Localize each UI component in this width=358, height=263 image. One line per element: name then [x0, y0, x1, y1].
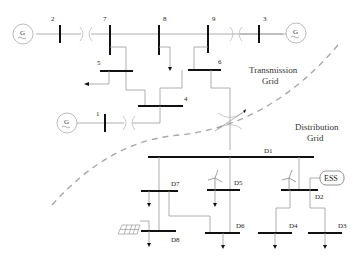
- generator-bus1: G: [57, 113, 77, 133]
- bus-4-label: 4: [184, 95, 188, 103]
- bus-8-label: 8: [163, 15, 167, 23]
- bus-D7-label: D7: [171, 180, 180, 188]
- bus-D6-label: D6: [236, 222, 245, 230]
- load-arrow-icon: [147, 203, 151, 207]
- generator-label: G: [293, 28, 298, 36]
- bus-D1-label: D1: [264, 147, 273, 155]
- bus-D5-label: D5: [234, 179, 243, 187]
- distribution-grid-label-2: Grid: [307, 133, 324, 143]
- pv-panel: [118, 221, 149, 234]
- wind-turbine-D5: [208, 170, 222, 190]
- transformer-2-7: [80, 27, 92, 41]
- load-arrow-icon: [221, 245, 225, 249]
- bus-3-label: 3: [263, 15, 267, 23]
- bus-5-label: 5: [97, 59, 101, 67]
- bus-D8-label: D8: [171, 236, 180, 244]
- bus-D4-label: D4: [289, 222, 298, 230]
- power-grid-diagram: G 2 7 8 9 3 G 5 6 4: [0, 0, 358, 263]
- line-6-4: [160, 70, 182, 106]
- bus-D2-label: D2: [315, 193, 324, 201]
- bus-1-label: 1: [96, 110, 100, 118]
- transmission-grid-label-2: Grid: [262, 76, 279, 86]
- bus-7-label: 7: [103, 15, 107, 23]
- bus-6-label: 6: [218, 58, 222, 66]
- bus-D3-label: D3: [338, 222, 347, 230]
- load-arrow-icon: [147, 243, 151, 247]
- line-D7-D6: [169, 191, 210, 233]
- wind-turbine-D2: [282, 170, 296, 190]
- line-9-6: [194, 47, 208, 70]
- generator-label: G: [20, 29, 25, 37]
- bus-9-label: 9: [212, 15, 216, 23]
- transmission-grid-label: Transmission: [249, 65, 298, 75]
- substation-transformer: [215, 109, 246, 131]
- bus-2-label: 2: [51, 15, 55, 23]
- load-arrow-icon: [213, 203, 217, 207]
- ess-label: ESS: [324, 174, 338, 183]
- load-arrow-icon: [84, 82, 89, 86]
- load-arrow-icon: [273, 245, 277, 249]
- distribution-grid-label: Distribution: [295, 122, 339, 132]
- load-arrow-icon: [323, 245, 327, 249]
- generator-label: G: [64, 118, 69, 126]
- generator-bus2: G: [13, 24, 33, 44]
- load-arrow-icon: [168, 67, 172, 71]
- generator-bus3: G: [286, 23, 306, 43]
- line-D2-D4: [276, 190, 290, 233]
- line-7-4: [110, 47, 145, 106]
- line-6-distribution: [211, 70, 230, 150]
